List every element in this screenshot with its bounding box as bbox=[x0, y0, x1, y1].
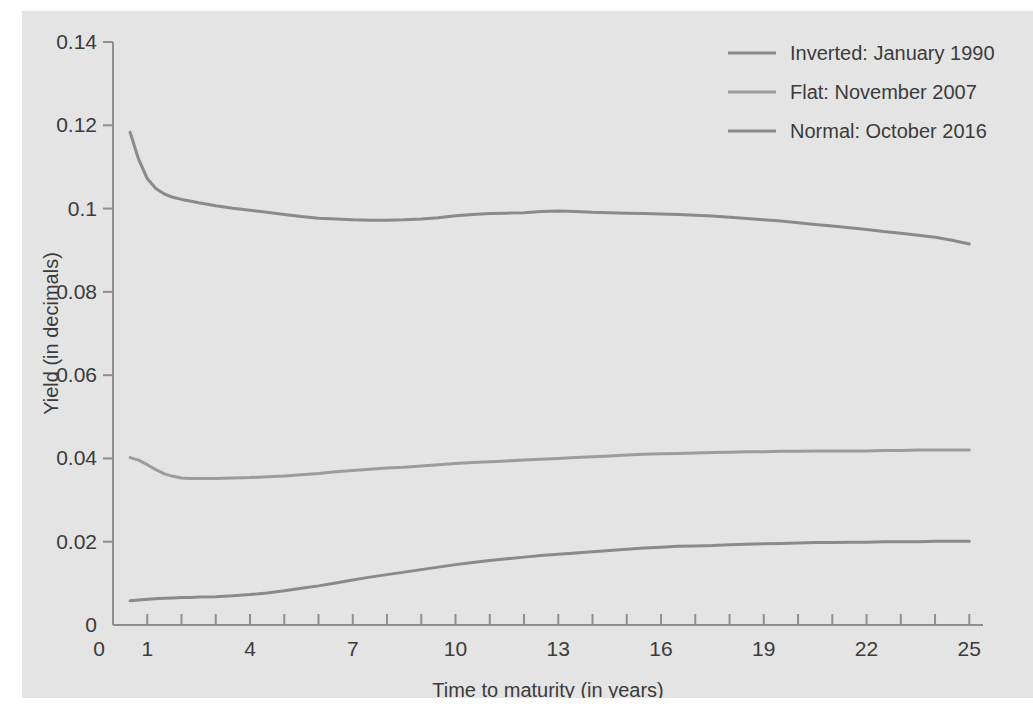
y-tick-label: 0.08 bbox=[56, 280, 97, 303]
legend-label: Flat: November 2007 bbox=[790, 81, 977, 103]
x-tick-label: 10 bbox=[444, 637, 467, 660]
y-tick-label: 0.1 bbox=[68, 197, 97, 220]
y-tick-label: 0.02 bbox=[56, 530, 97, 553]
chart-legend: Inverted: January 1990Flat: November 200… bbox=[728, 42, 995, 142]
legend-label: Normal: October 2016 bbox=[790, 120, 987, 142]
x-tick-label: 0 bbox=[93, 637, 105, 660]
y-tick-label: 0.14 bbox=[56, 30, 97, 53]
chart-series-line bbox=[130, 541, 969, 601]
x-tick-label: 16 bbox=[649, 637, 672, 660]
legend-label: Inverted: January 1990 bbox=[790, 42, 995, 64]
y-tick-label: 0 bbox=[85, 613, 97, 636]
y-tick-label: 0.06 bbox=[56, 363, 97, 386]
chart-series-line bbox=[130, 132, 969, 244]
x-tick-label: 7 bbox=[347, 637, 359, 660]
chart-axis-titles: Time to maturity (in years)Yield (in dec… bbox=[40, 252, 664, 698]
x-tick-label: 1 bbox=[141, 637, 153, 660]
chart-series-group bbox=[130, 132, 969, 600]
y-tick-label: 0.04 bbox=[56, 446, 97, 469]
x-tick-label: 13 bbox=[547, 637, 570, 660]
chart-figure: 00.020.040.060.080.10.120.14014710131619… bbox=[22, 11, 1033, 698]
x-tick-label: 19 bbox=[752, 637, 775, 660]
x-tick-label: 25 bbox=[958, 637, 981, 660]
x-tick-label: 22 bbox=[855, 637, 878, 660]
y-axis-title: Yield (in decimals) bbox=[40, 252, 62, 415]
y-tick-label: 0.12 bbox=[56, 113, 97, 136]
x-axis-title: Time to maturity (in years) bbox=[432, 679, 664, 698]
chart-series-line bbox=[130, 450, 969, 478]
x-tick-label: 4 bbox=[244, 637, 256, 660]
yield-curve-chart: 00.020.040.060.080.10.120.14014710131619… bbox=[22, 11, 1033, 698]
